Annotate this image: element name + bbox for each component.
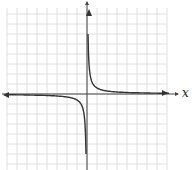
axes	[2, 1, 179, 170]
hyperbola-chart	[0, 0, 196, 170]
curves	[3, 9, 169, 154]
curve-left-arrow-icon	[3, 92, 9, 98]
x-axis-label: x	[182, 86, 189, 100]
x-axis-arrow-icon	[175, 92, 179, 96]
y-axis-arrow-icon	[85, 1, 89, 5]
